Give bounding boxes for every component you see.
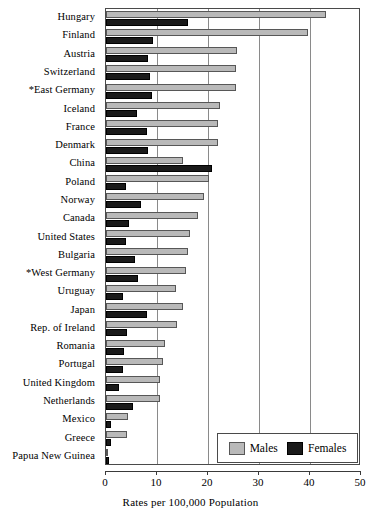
legend-entry-females: Females: [287, 442, 346, 455]
bar-females: [106, 183, 126, 190]
bar-males: [106, 358, 163, 365]
legend-label-males: Males: [250, 442, 278, 454]
category-label: France: [0, 121, 95, 132]
bar-males: [106, 102, 220, 109]
x-tick-label-30: 30: [243, 476, 273, 488]
category-label: China: [0, 157, 95, 168]
bar-females: [106, 238, 126, 245]
x-tick-label-50: 50: [345, 476, 375, 488]
bar-females: [106, 293, 123, 300]
bar-males: [106, 230, 190, 237]
bar-males: [106, 413, 128, 420]
bar-females: [106, 110, 137, 117]
bar-females: [106, 73, 150, 80]
bar-females: [106, 366, 123, 373]
bar-males: [106, 65, 236, 72]
bar-males: [106, 47, 237, 54]
category-label: Rep. of Ireland: [0, 322, 95, 333]
bar-females: [106, 275, 138, 282]
legend-swatch-females-icon: [287, 442, 303, 455]
category-label: Switzerland: [0, 66, 95, 77]
category-label: Papua New Guinea: [0, 450, 95, 461]
x-tick-30: [258, 471, 259, 475]
bar-males: [106, 11, 326, 18]
bar-females: [106, 92, 152, 99]
category-label: United Kingdom: [0, 377, 95, 388]
bar-males: [106, 120, 218, 127]
bar-females: [106, 384, 119, 391]
bar-females: [106, 165, 212, 172]
category-label: *East Germany: [0, 84, 95, 95]
category-label: Mexico: [0, 413, 95, 424]
bar-females: [106, 403, 133, 410]
bar-males: [106, 248, 188, 255]
bar-males: [106, 175, 209, 182]
category-label: *West Germany: [0, 267, 95, 278]
chart-figure: HungaryFinlandAustriaSwitzerland*East Ge…: [0, 0, 381, 524]
x-tick-0: [105, 471, 106, 475]
bar-females: [106, 220, 129, 227]
bar-females: [106, 348, 124, 355]
category-label: Norway: [0, 194, 95, 205]
bar-females: [106, 256, 135, 263]
legend-swatch-males-icon: [229, 442, 245, 455]
x-tick-label-40: 40: [294, 476, 324, 488]
bar-females: [106, 37, 153, 44]
x-tick-label-20: 20: [192, 476, 222, 488]
bar-females: [106, 147, 148, 154]
bar-males: [106, 267, 186, 274]
bar-females: [106, 201, 141, 208]
bar-males: [106, 84, 236, 91]
bar-males: [106, 376, 160, 383]
x-tick-label-0: 0: [90, 476, 120, 488]
bar-females: [106, 55, 148, 62]
bar-males: [106, 157, 183, 164]
bar-females: [106, 457, 109, 464]
bar-males: [106, 303, 183, 310]
category-label: Portugal: [0, 358, 95, 369]
category-label: Bulgaria: [0, 249, 95, 260]
category-label: Austria: [0, 48, 95, 59]
category-label: Finland: [0, 29, 95, 40]
category-label: Canada: [0, 212, 95, 223]
x-axis: 01020304050: [105, 471, 360, 472]
gridline-20: [208, 9, 209, 464]
category-label: Japan: [0, 304, 95, 315]
bar-females: [106, 128, 147, 135]
category-label: Denmark: [0, 139, 95, 150]
x-tick-10: [156, 471, 157, 475]
bar-males: [106, 193, 204, 200]
bar-females: [106, 329, 127, 336]
category-label: Poland: [0, 176, 95, 187]
bar-females: [106, 439, 111, 446]
category-label: Uruguay: [0, 285, 95, 296]
category-label: Hungary: [0, 11, 95, 22]
bar-males: [106, 395, 160, 402]
category-label: Greece: [0, 432, 95, 443]
x-tick-50: [360, 471, 361, 475]
bar-males: [106, 285, 176, 292]
bar-males: [106, 340, 165, 347]
plot-area: [105, 8, 360, 465]
x-tick-label-10: 10: [141, 476, 171, 488]
legend-entry-males: Males: [229, 442, 278, 455]
bar-males: [106, 321, 177, 328]
bar-females: [106, 19, 188, 26]
category-label: Romania: [0, 340, 95, 351]
bar-males: [106, 431, 127, 438]
legend-label-females: Females: [308, 442, 346, 454]
x-tick-40: [309, 471, 310, 475]
bar-males: [106, 212, 198, 219]
category-axis-labels: HungaryFinlandAustriaSwitzerland*East Ge…: [0, 8, 99, 465]
gridline-40: [310, 9, 311, 464]
bar-males: [106, 449, 108, 456]
bar-females: [106, 421, 111, 428]
category-label: Iceland: [0, 103, 95, 114]
category-label: United States: [0, 231, 95, 242]
bar-males: [106, 139, 218, 146]
gridline-30: [259, 9, 260, 464]
bar-females: [106, 311, 147, 318]
bar-males: [106, 29, 308, 36]
category-label: Netherlands: [0, 395, 95, 406]
x-axis-title: Rates per 100,000 Population: [0, 496, 381, 509]
